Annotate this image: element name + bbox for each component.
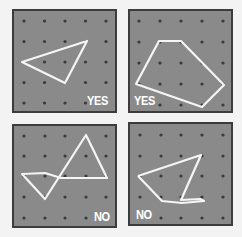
answer-label: NO (94, 209, 110, 224)
rubber-band-shape (22, 135, 107, 199)
geoboard-panel-bottom-right: NO (128, 122, 233, 226)
peg-grid (22, 19, 107, 104)
geoboard-panel-top-left: YES (12, 9, 117, 113)
answer-label: NO (136, 207, 152, 222)
geoboard-panel-bottom-left: NO (12, 124, 117, 228)
rubber-band-shape (22, 41, 87, 83)
rubber-band-shape (138, 155, 204, 203)
answer-label: YES (87, 93, 108, 108)
geoboard-panel-top-right: YES (128, 9, 233, 113)
answer-label: YES (134, 93, 155, 108)
